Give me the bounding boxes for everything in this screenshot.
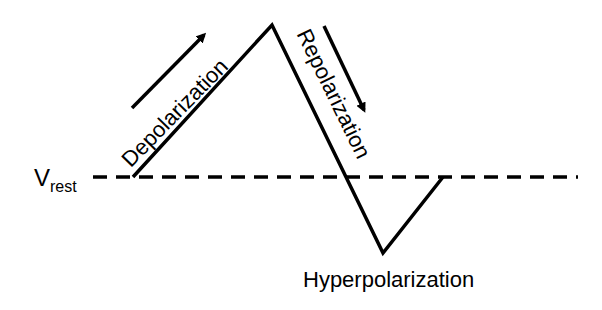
hyperpolarization-label: Hyperpolarization (303, 267, 474, 292)
vrest-label-main: V (34, 164, 50, 191)
vrest-label-sub: rest (50, 178, 77, 195)
depolarization-label: Depolarization (117, 54, 233, 172)
vrest-label: V rest (34, 164, 77, 195)
action-potential-diagram: V rest Depolarization Repolarization Hyp… (0, 0, 602, 310)
diagram-canvas: V rest Depolarization Repolarization Hyp… (0, 0, 602, 310)
